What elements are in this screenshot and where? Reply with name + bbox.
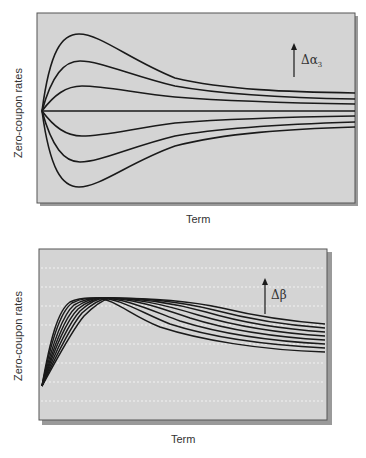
bottom-chart-svg bbox=[0, 230, 366, 458]
bottom-plot-area bbox=[39, 249, 327, 420]
bottom-y-axis-label: Zero-coupon rates bbox=[12, 291, 24, 381]
top-x-axis-label: Term bbox=[186, 213, 210, 225]
top-chart-svg bbox=[0, 0, 366, 230]
bottom-annotation: Δβ bbox=[271, 288, 287, 302]
top-plot-area bbox=[37, 13, 355, 203]
top-annotation-text: Δα bbox=[301, 53, 318, 67]
top-annotation-subscript: 3 bbox=[318, 61, 322, 69]
top-chart-panel: Zero-coupon rates Δα3 Term bbox=[0, 0, 366, 230]
bottom-x-axis-label: Term bbox=[171, 433, 195, 445]
bottom-chart-panel: Zero-coupon rates Δβ Term bbox=[0, 230, 366, 458]
top-y-axis-label: Zero-coupon rates bbox=[12, 68, 24, 158]
top-annotation: Δα3 bbox=[301, 53, 322, 69]
